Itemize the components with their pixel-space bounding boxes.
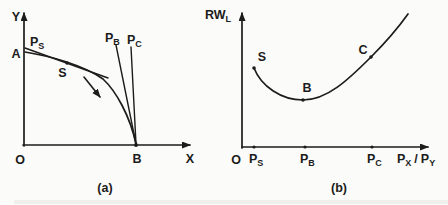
panel-a-price-line-pc-label: PC — [127, 33, 142, 49]
panel-a-point-s-dot — [65, 61, 68, 64]
panel-a-point-b-label: B — [132, 152, 141, 166]
panel-a-caption: (a) — [97, 181, 112, 195]
panel-b-point-b-dot — [301, 98, 305, 102]
panel-b-point-s-dot — [252, 66, 256, 70]
panel-b-tick-ps-label: PS — [249, 152, 263, 168]
panel-b-tick-pc-dot — [370, 145, 373, 148]
panel-b-tick-ps-dot — [252, 145, 255, 148]
panel-a-point-a-label: A — [11, 47, 20, 61]
panel-a-origin-label: O — [15, 153, 25, 167]
panel-b-point-b-label: B — [302, 81, 311, 95]
panel-b-point-c-label: C — [358, 43, 367, 57]
panel-b-y-axis-label: RWL — [205, 8, 232, 24]
panel-a-point-b-dot — [134, 143, 138, 147]
panel-b-point-c-dot — [369, 55, 373, 59]
panel-a-ppf-curve — [25, 52, 136, 144]
panel-a-price-line-ps-label: PS — [30, 35, 44, 51]
panel-b-caption: (b) — [331, 181, 347, 195]
panel-b-origin-label: O — [231, 153, 241, 167]
panel-b-point-s-label: S — [258, 50, 266, 64]
panel-b: RWL O PS PB PC PX/PY S B C (b) — [205, 8, 435, 195]
panel-a-y-axis-label: Y — [12, 10, 21, 24]
panel-b-x-axis-label: PX/PY — [397, 152, 435, 168]
panel-a: Y X O A S B PS PB PC (a) — [11, 10, 194, 195]
panel-a-x-axis-label: X — [186, 152, 195, 166]
panel-b-tick-pb-dot — [303, 145, 306, 148]
panel-b-tick-pb-label: PB — [300, 152, 315, 168]
panel-a-price-line-pb-label: PB — [105, 31, 120, 47]
panel-a-point-s-label: S — [58, 66, 66, 80]
panel-a-direction-arrow — [84, 77, 100, 97]
panel-b-tick-pc-label: PC — [367, 152, 382, 168]
two-panel-economics-diagram: Y X O A S B PS PB PC (a) — [0, 0, 448, 205]
scan-artifact — [14, 200, 448, 204]
panel-b-rwl-curve — [254, 14, 408, 100]
diagram-canvas: Y X O A S B PS PB PC (a) — [0, 0, 448, 205]
